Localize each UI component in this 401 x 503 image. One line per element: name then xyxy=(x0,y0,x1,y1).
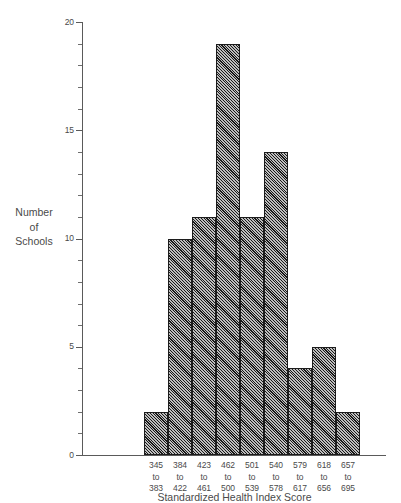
histogram-bar xyxy=(240,217,264,455)
x-axis-category-label-line: to xyxy=(263,472,289,484)
y-axis-minor-tick xyxy=(78,174,82,175)
x-axis-category-label: 657to695 xyxy=(335,460,361,495)
x-axis-category-label: 423to461 xyxy=(191,460,217,495)
x-axis-category-label-line: to xyxy=(143,472,169,484)
y-axis-title-line-2: of xyxy=(4,220,64,235)
y-axis-minor-tick xyxy=(78,282,82,283)
x-axis-category-label: 462to500 xyxy=(215,460,241,495)
x-axis-category-label-line: 618 xyxy=(311,460,337,472)
histogram-bar xyxy=(144,412,168,455)
y-axis-minor-tick xyxy=(78,44,82,45)
histogram-bar xyxy=(312,347,336,455)
y-axis-minor-tick xyxy=(78,390,82,391)
histogram-bar xyxy=(168,239,192,456)
y-axis-title-line-1: Number xyxy=(4,205,64,220)
y-axis-minor-tick xyxy=(78,304,82,305)
x-axis-category-label: 384to422 xyxy=(167,460,193,495)
y-axis-minor-tick xyxy=(78,87,82,88)
y-axis-tick-label-wrap: 0 xyxy=(44,455,74,456)
y-axis-tick-label: 0 xyxy=(48,451,74,460)
y-axis-minor-tick xyxy=(78,152,82,153)
y-axis-minor-tick xyxy=(78,109,82,110)
y-axis-minor-tick xyxy=(78,217,82,218)
x-axis-title: Standardized Health Index Score xyxy=(83,492,386,503)
x-axis-category-label-line: 345 xyxy=(143,460,169,472)
x-axis-category-label: 579to617 xyxy=(287,460,313,495)
x-axis-line xyxy=(82,455,386,456)
y-axis-tick-label: 20 xyxy=(48,18,74,27)
x-axis-category-label-line: to xyxy=(167,472,193,484)
y-axis-major-tick xyxy=(76,130,82,131)
x-axis-category-label-line: to xyxy=(215,472,241,484)
plot-area xyxy=(83,22,386,455)
y-axis-minor-tick xyxy=(78,65,82,66)
y-axis-major-tick xyxy=(76,347,82,348)
y-axis-tick-label: 5 xyxy=(48,342,74,351)
histogram-bar xyxy=(216,44,240,455)
y-axis-major-tick xyxy=(76,239,82,240)
histogram-bar xyxy=(288,368,312,455)
y-axis-tick-label-wrap: 5 xyxy=(44,347,74,348)
y-axis-major-tick xyxy=(76,455,82,456)
x-axis-category-label-line: 540 xyxy=(263,460,289,472)
histogram-chart: Number of Schools 05101520 345to383384to… xyxy=(0,0,401,503)
y-axis-tick-label: 10 xyxy=(48,234,74,243)
y-axis-minor-tick xyxy=(78,260,82,261)
y-axis-minor-tick xyxy=(78,412,82,413)
x-axis-category-label: 540to578 xyxy=(263,460,289,495)
x-axis-category-label-line: to xyxy=(335,472,361,484)
histogram-bar xyxy=(192,217,216,455)
y-axis-minor-tick xyxy=(78,368,82,369)
x-axis-category-label: 501to539 xyxy=(239,460,265,495)
x-axis-category-label-line: 423 xyxy=(191,460,217,472)
x-axis-category-label-line: to xyxy=(311,472,337,484)
x-axis-category-label-line: to xyxy=(239,472,265,484)
y-axis-tick-label-wrap: 15 xyxy=(44,130,74,131)
x-axis-category-label-line: 657 xyxy=(335,460,361,472)
x-axis-category-label-line: to xyxy=(191,472,217,484)
y-axis-minor-tick xyxy=(78,195,82,196)
histogram-bar xyxy=(264,152,288,455)
x-axis-category-label-line: to xyxy=(287,472,313,484)
y-axis-minor-tick xyxy=(78,433,82,434)
y-axis-tick-label-wrap: 20 xyxy=(44,22,74,23)
y-axis-major-tick xyxy=(76,22,82,23)
x-axis-category-label-line: 501 xyxy=(239,460,265,472)
histogram-bar xyxy=(336,412,360,455)
x-axis-category-label-line: 384 xyxy=(167,460,193,472)
y-axis-minor-tick xyxy=(78,325,82,326)
x-axis-category-label-line: 462 xyxy=(215,460,241,472)
x-axis-category-label: 618to656 xyxy=(311,460,337,495)
x-axis-category-label: 345to383 xyxy=(143,460,169,495)
y-axis-tick-label: 15 xyxy=(48,126,74,135)
x-axis-category-label-line: 579 xyxy=(287,460,313,472)
y-axis-tick-label-wrap: 10 xyxy=(44,239,74,240)
